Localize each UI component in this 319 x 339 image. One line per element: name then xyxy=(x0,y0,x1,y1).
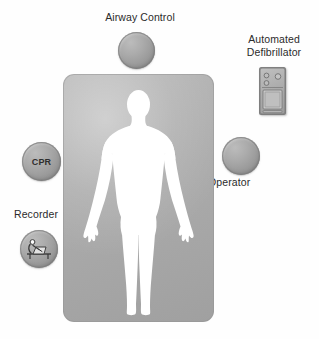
recorder-desk-icon xyxy=(20,230,58,268)
automated-defibrillator-label: Automated Defibrillator xyxy=(232,33,316,58)
recorder-position-marker[interactable] xyxy=(20,230,58,268)
airway-control-position-marker[interactable] xyxy=(118,32,155,69)
cpr-position-marker[interactable]: CPR xyxy=(22,142,61,181)
cpr-label: CPR xyxy=(32,157,52,167)
airway-control-label: Airway Control xyxy=(92,11,188,24)
resuscitation-team-positions-diagram: Airway Control Automated Defibrillator O… xyxy=(0,0,319,339)
operator-position-marker[interactable] xyxy=(222,137,260,175)
patient-mat xyxy=(63,74,214,322)
operator-label: Operator xyxy=(208,176,276,189)
defibrillator-glyph xyxy=(259,67,286,115)
patient-silhouette-icon xyxy=(63,74,214,322)
defibrillator-icon[interactable] xyxy=(259,67,286,115)
